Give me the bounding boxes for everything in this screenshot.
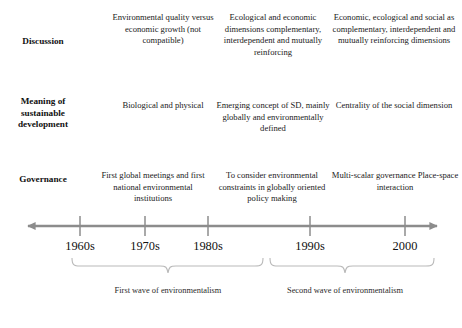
cell-discussion-period-1: Environmental quality versus economic gr… (106, 12, 220, 47)
cell-governance-period-1: First global meetings and first national… (96, 170, 210, 205)
wave-braces (0, 256, 462, 284)
tick-label-1990s: 1990s (280, 239, 340, 254)
wave-caption-first: First wave of environmentalism (108, 285, 228, 296)
cell-discussion-period-2: Ecological and economic dimensions compl… (215, 12, 331, 58)
cell-meaning-period-1: Biological and physical (106, 100, 220, 112)
tick-label-2000: 2000 (375, 239, 435, 254)
tick-label-1960s: 1960s (50, 239, 110, 254)
tick-label-1970s: 1970s (115, 239, 175, 254)
row-label-governance: Governance (0, 174, 86, 186)
cell-governance-period-3: Multi-scalar governance Place-space inte… (328, 170, 462, 193)
cell-meaning-period-2: Emerging concept of SD, mainly globally … (215, 100, 331, 135)
brace-first-wave (72, 258, 263, 273)
tick-label-1980s: 1980s (178, 239, 238, 254)
sustainability-timeline-figure: Discussion Meaning of sustainable develo… (0, 0, 462, 328)
row-label-meaning-of-sustainable-development: Meaning of sustainable development (0, 96, 86, 131)
brace-second-wave (270, 258, 434, 273)
wave-caption-second: Second wave of environmentalism (285, 285, 405, 296)
cell-governance-period-2: To consider environmental constraints in… (212, 170, 332, 205)
cell-discussion-period-3: Economic, ecological and social as compl… (330, 12, 458, 47)
cell-meaning-period-3: Centrality of the social dimension (330, 100, 458, 112)
row-label-discussion: Discussion (0, 36, 86, 48)
